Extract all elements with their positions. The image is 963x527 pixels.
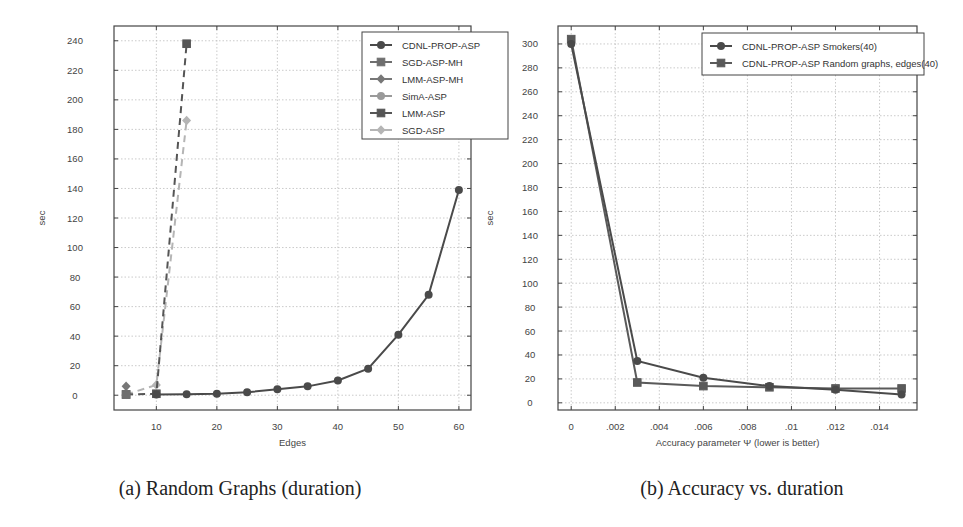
legend-label: SGD-ASP-MH: [402, 57, 463, 68]
legend-item: CDNL-PROP-ASP Random graphs, edges(40): [710, 58, 938, 69]
legend-label: SimA-ASP: [402, 91, 447, 102]
x-tick-label: .01: [785, 421, 798, 432]
data-point: [699, 374, 707, 382]
legend-label: LMM-ASP: [402, 108, 445, 119]
y-tick-label: 220: [522, 134, 538, 145]
x-tick-label: .008: [738, 421, 757, 432]
x-tick-label: .012: [826, 421, 845, 432]
data-point: [122, 382, 131, 392]
data-point: [334, 376, 342, 384]
y-tick-label: 240: [522, 110, 538, 121]
legend-label: CDNL-PROP-ASP Random graphs, edges(40): [742, 58, 938, 69]
grid: [558, 26, 917, 410]
legend-label: CDNL-PROP-ASP: [402, 40, 480, 51]
data-point: [243, 388, 251, 396]
y-tick-label: 140: [67, 183, 83, 194]
y-axis-label: sec: [36, 210, 47, 225]
data-point: [455, 186, 463, 194]
series-line: [571, 44, 901, 395]
y-tick-label: 280: [522, 62, 538, 73]
y-tick-label: 80: [70, 272, 81, 283]
y-tick-label: 260: [522, 86, 538, 97]
y-tick-label: 0: [527, 397, 532, 408]
y-tick-label: 40: [70, 331, 81, 342]
y-tick-label: 100: [67, 242, 83, 253]
y-tick-label: 220: [67, 65, 83, 76]
x-tick-label: .004: [650, 421, 669, 432]
y-tick-label: 180: [67, 124, 83, 135]
x-tick-label: 30: [272, 421, 283, 432]
y-tick-label: 100: [522, 278, 538, 289]
data-point: [364, 365, 372, 373]
x-tick-label: .002: [606, 421, 625, 432]
legend-item: LMM-ASP: [370, 108, 445, 119]
y-tick-label: 80: [525, 302, 536, 313]
y-tick-label: 180: [522, 182, 538, 193]
x-tick-label: .006: [694, 421, 713, 432]
data-point: [633, 357, 641, 365]
data-point: [700, 382, 708, 390]
legend-label: SGD-ASP: [402, 125, 445, 136]
series-cdnl-prop-asp-random-graphs-edges-40-: [567, 35, 905, 392]
legend-marker: [377, 109, 385, 117]
x-axis-label: Accuracy parameter Ψ (lower is better): [656, 437, 820, 448]
legend-item: SGD-ASP: [370, 125, 445, 136]
y-tick-label: 200: [522, 158, 538, 169]
x-tick-label: 0: [569, 421, 574, 432]
caption: (a) Random Graphs (duration): [119, 477, 362, 500]
y-axis-label: sec: [484, 210, 495, 225]
legend-box: [702, 33, 924, 75]
legend: CDNL-PROP-ASPSGD-ASP-MHLMM-ASP-MHSimA-AS…: [362, 32, 508, 139]
data-point: [633, 379, 641, 387]
data-point: [304, 382, 312, 390]
caption: (b) Accuracy vs. duration: [640, 477, 843, 500]
y-tick-label: 120: [522, 254, 538, 265]
y-tick-label: 60: [70, 301, 81, 312]
legend-marker: [377, 92, 385, 100]
x-tick-label: 50: [393, 421, 404, 432]
x-tick-label: 40: [333, 421, 344, 432]
y-tick-label: 20: [70, 360, 81, 371]
y-tick-label: 40: [525, 349, 536, 360]
data-point: [898, 390, 906, 398]
legend-marker: [377, 58, 385, 66]
y-tick-label: 240: [67, 35, 83, 46]
data-point: [213, 390, 221, 398]
y-tick-label: 120: [67, 213, 83, 224]
data-point: [122, 391, 130, 399]
data-point: [567, 40, 575, 48]
data-point: [832, 386, 840, 394]
series-cdnl-prop-asp-smokers-40-: [567, 40, 905, 399]
y-tick-label: 140: [522, 230, 538, 241]
y-tick-label: 300: [522, 38, 538, 49]
legend-item: SGD-ASP-MH: [370, 57, 463, 68]
x-tick-label: 20: [212, 421, 223, 432]
plot-frame: [558, 26, 917, 410]
data-point: [152, 390, 160, 398]
y-tick-label: 160: [522, 206, 538, 217]
series-lmm-asp-mh: [122, 382, 131, 392]
legend-marker: [717, 42, 725, 50]
y-tick-label: 20: [525, 373, 536, 384]
data-point: [394, 331, 402, 339]
x-tick-label: 60: [454, 421, 465, 432]
data-point: [425, 291, 433, 299]
legend-item: SimA-ASP: [370, 91, 447, 102]
data-point: [182, 116, 191, 126]
data-point: [183, 40, 191, 48]
legend-label: CDNL-PROP-ASP Smokers(40): [742, 41, 877, 52]
legend-marker: [717, 59, 725, 67]
legend-label: LMM-ASP-MH: [402, 74, 463, 85]
data-point: [273, 385, 281, 393]
series-line: [156, 190, 459, 395]
chart-random-graphs: 0204060801001201401601802002202401020304…: [36, 26, 508, 500]
series-sgd-asp-mh: [122, 391, 130, 399]
x-tick-label: 10: [151, 421, 162, 432]
data-point: [765, 382, 773, 390]
legend-marker: [377, 41, 385, 49]
legend: CDNL-PROP-ASP Smokers(40)CDNL-PROP-ASP R…: [702, 33, 938, 75]
y-tick-label: 60: [525, 326, 536, 337]
figure: 0204060801001201401601802002202401020304…: [0, 0, 963, 527]
y-tick-label: 160: [67, 153, 83, 164]
x-axis-label: Edges: [279, 437, 306, 448]
